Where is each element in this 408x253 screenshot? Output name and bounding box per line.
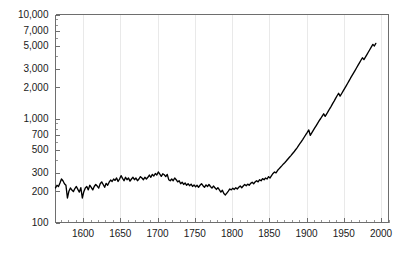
data-series-group bbox=[56, 43, 376, 198]
y-axis-label: 200 bbox=[32, 186, 49, 197]
y-axis-label: 100 bbox=[32, 217, 49, 228]
y-axis-label: 7,000 bbox=[23, 25, 48, 36]
x-axis-label: 1700 bbox=[146, 228, 169, 239]
y-axis-label: 10,000 bbox=[18, 9, 49, 20]
y-axis-label: 700 bbox=[32, 129, 49, 140]
y-axis-label: 1,000 bbox=[23, 113, 48, 124]
x-axis-label: 1600 bbox=[72, 228, 95, 239]
x-axis-label: 1950 bbox=[333, 228, 356, 239]
grid-lines bbox=[84, 15, 382, 223]
x-axis-tick-labels: 160016501700175018001850190019502000 bbox=[72, 228, 393, 239]
x-axis-label: 2000 bbox=[370, 228, 393, 239]
y-axis-label: 5,000 bbox=[23, 40, 48, 51]
x-axis-label: 1650 bbox=[109, 228, 132, 239]
x-axis-label: 1750 bbox=[184, 228, 207, 239]
y-axis-label: 2,000 bbox=[23, 82, 48, 93]
data-series-line bbox=[56, 43, 376, 198]
x-axis-label: 1850 bbox=[258, 228, 281, 239]
x-axis-label: 1900 bbox=[295, 228, 318, 239]
y-axis-label: 300 bbox=[32, 167, 49, 178]
y-axis-ticks bbox=[56, 16, 60, 224]
chart-container: 10,0007,0005,0003,0002,0001,000700500300… bbox=[0, 0, 408, 253]
y-axis-label: 3,000 bbox=[23, 63, 48, 74]
y-axis-tick-labels: 10,0007,0005,0003,0002,0001,000700500300… bbox=[18, 9, 49, 228]
x-axis-ticks bbox=[62, 218, 390, 223]
line-chart: 10,0007,0005,0003,0002,0001,000700500300… bbox=[0, 0, 408, 253]
y-axis-label: 500 bbox=[32, 144, 49, 155]
x-axis-label: 1800 bbox=[221, 228, 244, 239]
